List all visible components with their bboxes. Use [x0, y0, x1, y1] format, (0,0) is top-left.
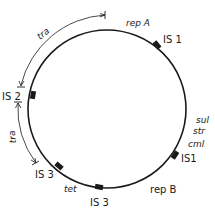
is1-top-marker — [153, 40, 162, 49]
is2-label: IS 2 — [2, 91, 21, 102]
repB-label: rep B — [150, 184, 177, 195]
is1-top-label: IS 1 — [163, 34, 182, 45]
str-label: str — [193, 126, 206, 136]
plasmid-map: tra tra IS 1 IS1 IS 2 IS 3 IS 3 rep A re… — [0, 0, 215, 211]
is2-marker — [30, 91, 36, 100]
tra-upper-label: tra — [35, 26, 51, 42]
sul-label: sul — [196, 115, 209, 125]
is3-bottom-label: IS 3 — [90, 197, 109, 208]
tra-lower-arrowhead-bottom — [31, 158, 36, 163]
repA-label: rep A — [126, 18, 150, 28]
cml-label: cml — [188, 139, 205, 149]
tet-label: tet — [64, 184, 77, 194]
plasmid-backbone — [28, 30, 186, 188]
tra-upper-arc — [21, 15, 105, 85]
is3-left-label: IS 3 — [35, 169, 54, 180]
is3-bottom-marker — [95, 184, 104, 190]
tra-lower-label: tra — [7, 130, 18, 144]
tra-lower-arc — [18, 103, 36, 163]
is1-right-label: IS1 — [181, 153, 197, 164]
